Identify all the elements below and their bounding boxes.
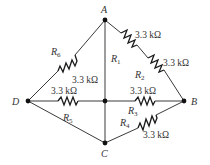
node-label-b: B (191, 96, 197, 107)
resistor-label-r6: R6 (50, 46, 61, 59)
wire-r4-b (156, 101, 184, 115)
wire-r6-a (75, 20, 105, 55)
resistor-value-r6: 3.3 kΩ (72, 75, 98, 85)
wire-c-r4 (105, 128, 138, 143)
wire-r2-b (164, 70, 184, 101)
resistor-label-r4: R4 (119, 117, 130, 130)
circuit-diagram: A B C D R6 3.3 kΩ R1 3.3 kΩ R2 3.3 kΩ 3.… (0, 0, 210, 165)
resistor-value-r3: 3.3 kΩ (130, 86, 156, 96)
resistor-value-r1: 3.3 kΩ (135, 30, 161, 40)
node-a (103, 18, 108, 23)
wire-r1-r2 (137, 45, 148, 58)
resistor-label-r2: R2 (134, 69, 145, 82)
resistor-r6 (58, 55, 77, 72)
node-c (103, 141, 108, 146)
resistor-value-r2: 3.3 kΩ (163, 58, 189, 68)
resistor-r2 (148, 55, 164, 72)
node-label-d: D (11, 96, 20, 107)
resistor-r4 (138, 115, 157, 130)
resistor-r3 (135, 97, 155, 105)
resistor-label-r1: R1 (110, 53, 121, 66)
resistor-value-d-center: 3.3 kΩ (51, 86, 77, 96)
node-b (182, 99, 187, 104)
node-center (103, 99, 108, 104)
node-d (26, 99, 31, 104)
resistor-label-r3: R3 (127, 105, 138, 118)
resistor-d-center (58, 97, 78, 105)
resistor-value-r4: 3.3 kΩ (143, 130, 169, 140)
wire-a-r1 (105, 20, 121, 33)
node-label-c: C (101, 148, 108, 159)
node-label-a: A (100, 4, 108, 15)
